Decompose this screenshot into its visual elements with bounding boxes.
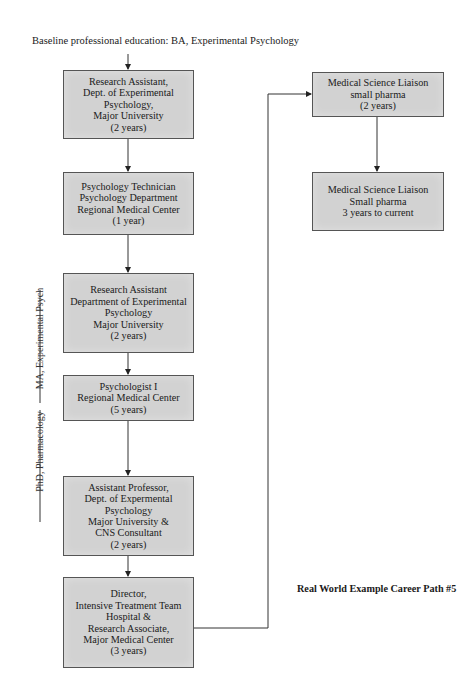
career-box-research-assistant-2: Research Assistant Department of Experim… xyxy=(63,273,194,353)
box-line: Department of Experimental xyxy=(70,296,187,307)
box-line: Psychology xyxy=(85,505,173,516)
box-line: Small pharma xyxy=(328,196,429,207)
box-line: Major University xyxy=(83,110,174,121)
career-box-psychologist-1: Psychologist I Regional Medical Center (… xyxy=(63,375,194,421)
box-line: Dept. of Experimental xyxy=(83,87,174,98)
career-box-msl-1: Medical Science Liaison small pharma (2 … xyxy=(312,72,444,117)
box-line: (5 years) xyxy=(77,404,179,415)
box-line: Intensive Treatment Team xyxy=(75,600,181,611)
career-box-research-assistant-1: Research Assistant, Dept. of Experimenta… xyxy=(63,70,194,139)
box-line: Major University xyxy=(70,319,187,330)
career-box-psychology-technician: Psychology Technician Psychology Departm… xyxy=(63,172,194,235)
side-label-ma: MA, Experimental Psych xyxy=(34,279,45,399)
box-line: Psychology Department xyxy=(77,192,179,203)
box-line: Psychology Technician xyxy=(77,181,179,192)
box-line: (3 years) xyxy=(75,645,181,656)
box-line: Major Medical Center xyxy=(75,634,181,645)
box-line: (2 years) xyxy=(83,122,174,133)
career-box-assistant-professor: Assistant Professor, Dept. of Expermenta… xyxy=(63,476,194,556)
diagram-caption: Real World Example Career Path #5 xyxy=(297,583,456,594)
box-line: Major University & xyxy=(85,516,173,527)
box-line: Director, xyxy=(75,588,181,599)
box-line: Research Associate, xyxy=(75,623,181,634)
box-line: Hospital & xyxy=(75,611,181,622)
box-line: (2 years) xyxy=(70,330,187,341)
box-line: Regional Medical Center xyxy=(77,204,179,215)
box-line: Research Assistant xyxy=(70,284,187,295)
box-line: Medical Science Liaison xyxy=(328,77,429,88)
box-line: Psychology, xyxy=(83,99,174,110)
box-line: small pharma xyxy=(328,89,429,100)
box-line: Assistant Professor, xyxy=(85,482,173,493)
box-line: CNS Consultant xyxy=(85,527,173,538)
box-line: Research Assistant, xyxy=(83,76,174,87)
career-box-director: Director, Intensive Treatment Team Hospi… xyxy=(63,577,194,668)
career-box-msl-2: Medical Science Liaison Small pharma 3 y… xyxy=(312,172,444,231)
box-line: Psychologist I xyxy=(77,381,179,392)
box-line: (1 year) xyxy=(77,215,179,226)
box-line: 3 years to current xyxy=(328,207,429,218)
box-line: Dept. of Expermental xyxy=(85,493,173,504)
box-line: Regional Medical Center xyxy=(77,392,179,403)
box-line: (2 years) xyxy=(328,100,429,111)
side-label-phd: PhD, Pharmacology xyxy=(34,392,45,512)
box-line: Medical Science Liaison xyxy=(328,184,429,195)
box-line: Psychology xyxy=(70,307,187,318)
box-line: (2 years) xyxy=(85,539,173,550)
